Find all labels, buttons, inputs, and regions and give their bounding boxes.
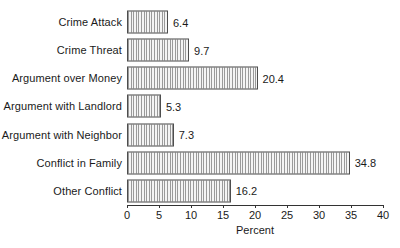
category-axis-labels: Crime Attack Crime Threat Argument over … [0, 8, 122, 205]
bar-value-label: 5.3 [166, 100, 181, 112]
bar [127, 151, 350, 174]
bar-group: 16.2 [127, 179, 257, 202]
category-row: Crime Threat [0, 36, 122, 64]
bar-group: 9.7 [127, 39, 209, 62]
bar-row: 6.4 [127, 8, 383, 36]
bar-value-label: 20.4 [263, 72, 284, 84]
tick-label: 20 [249, 209, 261, 221]
bar-row: 9.7 [127, 36, 383, 64]
bar-row: 34.8 [127, 149, 383, 177]
category-row: Other Conflict [0, 177, 122, 205]
tick-label: 15 [217, 209, 229, 221]
bar [127, 11, 168, 34]
tick-mark [287, 205, 288, 208]
bar-value-label: 6.4 [173, 16, 188, 28]
bar-group: 7.3 [127, 123, 194, 146]
bar-row: 5.3 [127, 92, 383, 120]
bar-chart: Crime Attack Crime Threat Argument over … [0, 0, 400, 248]
category-label: Argument over Money [12, 72, 122, 84]
bar-row: 16.2 [127, 177, 383, 205]
bar [127, 179, 231, 202]
bar-row: 7.3 [127, 121, 383, 149]
tick-mark [319, 205, 320, 208]
category-row: Argument with Landlord [0, 92, 122, 120]
tick-mark [223, 205, 224, 208]
category-row: Argument with Neighbor [0, 121, 122, 149]
bar-value-label: 9.7 [194, 44, 209, 56]
plot-area: 6.4 9.7 20.4 5.3 7.3 [127, 8, 383, 205]
tick-mark [383, 205, 384, 208]
bar [127, 67, 258, 90]
bar-group: 6.4 [127, 11, 188, 34]
tick-mark [191, 205, 192, 208]
tick-label: 30 [313, 209, 325, 221]
tick-mark [255, 205, 256, 208]
category-row: Argument over Money [0, 64, 122, 92]
tick-label: 5 [156, 209, 162, 221]
tick-label: 25 [281, 209, 293, 221]
bar [127, 123, 174, 146]
bar-row: 20.4 [127, 64, 383, 92]
tick-label: 0 [124, 209, 130, 221]
tick-label: 35 [345, 209, 357, 221]
tick-mark [127, 205, 128, 208]
category-label: Other Conflict [53, 185, 122, 197]
category-label: Argument with Landlord [4, 100, 122, 112]
category-label: Conflict in Family [36, 157, 122, 169]
bar-value-label: 34.8 [355, 157, 376, 169]
x-axis-title: Percent [127, 224, 383, 236]
category-label: Crime Threat [57, 44, 122, 56]
tick-label: 10 [185, 209, 197, 221]
tick-mark [159, 205, 160, 208]
tick-label: 40 [377, 209, 389, 221]
category-row: Crime Attack [0, 8, 122, 36]
bar [127, 95, 161, 118]
bar-value-label: 7.3 [179, 129, 194, 141]
bar-group: 20.4 [127, 67, 284, 90]
bar-group: 34.8 [127, 151, 376, 174]
category-label: Argument with Neighbor [2, 129, 122, 141]
category-label: Crime Attack [58, 16, 122, 28]
bar-group: 5.3 [127, 95, 181, 118]
tick-mark [351, 205, 352, 208]
bar-value-label: 16.2 [236, 185, 257, 197]
x-axis-ticks: 0510152025303540 [127, 205, 383, 223]
bar [127, 39, 189, 62]
category-row: Conflict in Family [0, 149, 122, 177]
